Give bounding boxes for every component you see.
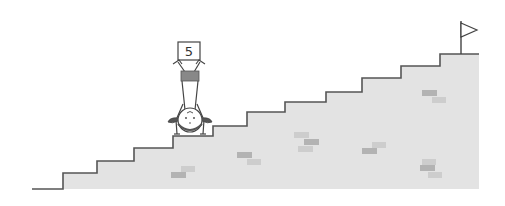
brick	[237, 152, 252, 158]
brick	[298, 146, 313, 152]
pigtail-left	[168, 118, 178, 123]
shorts	[181, 71, 199, 81]
flag-icon	[461, 21, 477, 54]
staircase-illustration: 5	[0, 0, 505, 206]
brick	[294, 132, 309, 138]
brick	[428, 172, 442, 178]
brick	[420, 165, 435, 171]
brick	[372, 142, 386, 148]
sign-number: 5	[185, 44, 193, 59]
pigtail-right	[202, 118, 212, 123]
brick	[304, 139, 319, 145]
stairs-fill	[63, 54, 479, 189]
brick	[432, 97, 446, 103]
brick	[171, 172, 186, 178]
brick	[247, 159, 261, 165]
brick	[181, 166, 195, 172]
brick	[422, 90, 437, 96]
number-sign: 5	[178, 42, 200, 60]
handstand-figure: 5	[168, 42, 212, 134]
brick	[422, 159, 436, 165]
illustration-canvas: 5	[0, 0, 505, 206]
brick	[362, 148, 377, 154]
